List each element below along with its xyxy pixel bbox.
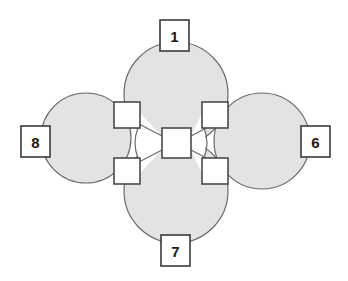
label-node-6[interactable]: 6 <box>301 126 330 157</box>
connector-bottom-right[interactable] <box>202 158 228 184</box>
connector-top-right[interactable] <box>202 102 228 128</box>
label-node-1-text: 1 <box>170 28 178 45</box>
connector-top-left[interactable] <box>114 102 140 128</box>
label-node-8[interactable]: 8 <box>21 126 50 157</box>
center-node[interactable] <box>162 128 191 158</box>
label-node-8-text: 8 <box>31 134 39 151</box>
label-node-7-text: 7 <box>171 243 179 260</box>
label-node-7[interactable]: 7 <box>161 235 190 266</box>
diagram-canvas: 1 8 6 7 <box>0 0 348 281</box>
label-node-6-text: 6 <box>311 134 319 151</box>
connector-bottom-left[interactable] <box>114 158 140 184</box>
label-node-1[interactable]: 1 <box>160 20 189 51</box>
clover-node-diagram: 1 8 6 7 <box>0 0 348 281</box>
